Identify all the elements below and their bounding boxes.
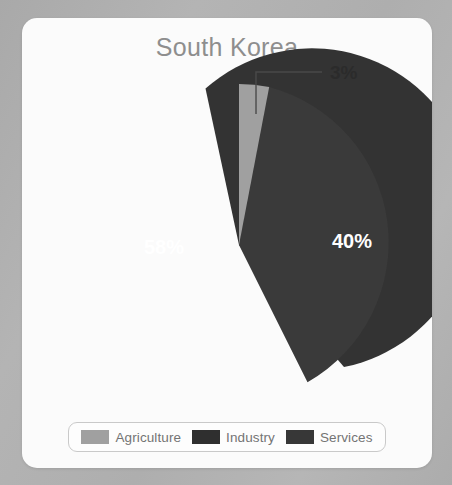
legend-label-industry: Industry — [226, 430, 275, 445]
slice-label-industry: 40% — [332, 230, 372, 252]
legend-swatch-industry — [192, 430, 220, 444]
legend-item-services[interactable]: Services — [286, 430, 373, 445]
pie-chart-svg: 58% 40% 3% — [22, 18, 432, 468]
legend-label-agriculture: Agriculture — [115, 430, 181, 445]
slice-label-services: 58% — [144, 236, 184, 258]
legend-item-agriculture[interactable]: Agriculture — [81, 430, 181, 445]
legend: Agriculture Industry Services — [68, 422, 386, 452]
chart-card: South Korea 58% 40% 3% Agriculture Indus… — [22, 18, 432, 468]
legend-swatch-agriculture — [81, 430, 109, 444]
legend-label-services: Services — [320, 430, 373, 445]
slice-label-agriculture: 3% — [330, 62, 358, 83]
legend-swatch-services — [286, 430, 314, 444]
pie-chart: 58% 40% 3% — [22, 18, 432, 468]
legend-item-industry[interactable]: Industry — [192, 430, 275, 445]
